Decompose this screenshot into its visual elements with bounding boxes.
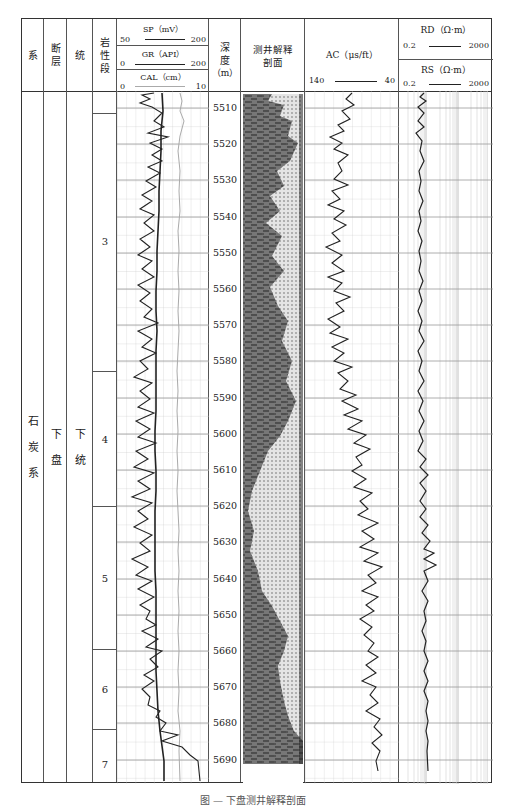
- depth-h3: （m）: [209, 67, 241, 80]
- gr-max: 200: [191, 57, 206, 70]
- header-lith-segment: 岩性段: [93, 36, 117, 75]
- sp-gr-grid: [117, 91, 209, 784]
- sp-gr-cal-header: SP（mV） 50 200 GR（API） 0 200 CAL（cm） 0 10: [117, 19, 209, 91]
- lithology-profile: [243, 94, 303, 764]
- header-series: 统: [67, 49, 93, 62]
- rs-label: RS（Ω·m）: [399, 64, 493, 77]
- log-tracks: [22, 91, 493, 784]
- res-log-grid: [408, 91, 488, 784]
- ac-grid: [305, 91, 399, 784]
- rd-legend-line: [429, 46, 461, 47]
- res-header: RD（Ω·m） 0.2 2000 RS（Ω·m） 0.2 2000: [399, 19, 493, 91]
- gr-legend-line: [135, 64, 185, 65]
- depth-h2: 度: [209, 54, 241, 67]
- rs-min: 0.2: [403, 77, 416, 90]
- header-depth: 深 度 （m）: [209, 41, 241, 80]
- rs-legend-line: [429, 84, 461, 85]
- header-fault: 断层: [44, 42, 67, 68]
- depth-h1: 深: [209, 41, 241, 54]
- ac-min: 140: [309, 74, 324, 87]
- ac-legend-line: [335, 81, 377, 82]
- rs-max: 2000: [469, 77, 489, 90]
- sp-legend-line: [145, 39, 185, 40]
- interp-h1: 测井解释: [241, 43, 305, 56]
- header-system: 系: [22, 49, 44, 62]
- gr-min: 0: [120, 57, 125, 70]
- rd-label: RD（Ω·m）: [399, 24, 493, 37]
- figure-caption: 图 — 下盘测井解释剖面: [0, 792, 506, 807]
- ac-header: AC（μs/ft） 140 40: [305, 19, 399, 91]
- header-fault-text: 断层: [50, 42, 62, 68]
- header-lith-segment-text: 岩性段: [99, 36, 111, 75]
- cal-legend-line: [135, 86, 185, 87]
- sp-max: 200: [191, 33, 206, 46]
- sp-min: 50: [120, 33, 130, 46]
- ac-label: AC（μs/ft）: [305, 49, 399, 62]
- rd-min: 0.2: [403, 39, 416, 52]
- log-panel: 系 断层 统 岩性段 SP（mV） 50 200 GR（API） 0 200 C…: [21, 18, 492, 783]
- ac-max: 40: [385, 74, 395, 87]
- rd-max: 2000: [469, 39, 489, 52]
- header-interp: 测井解释 剖面: [241, 43, 305, 69]
- interp-h2: 剖面: [241, 56, 305, 69]
